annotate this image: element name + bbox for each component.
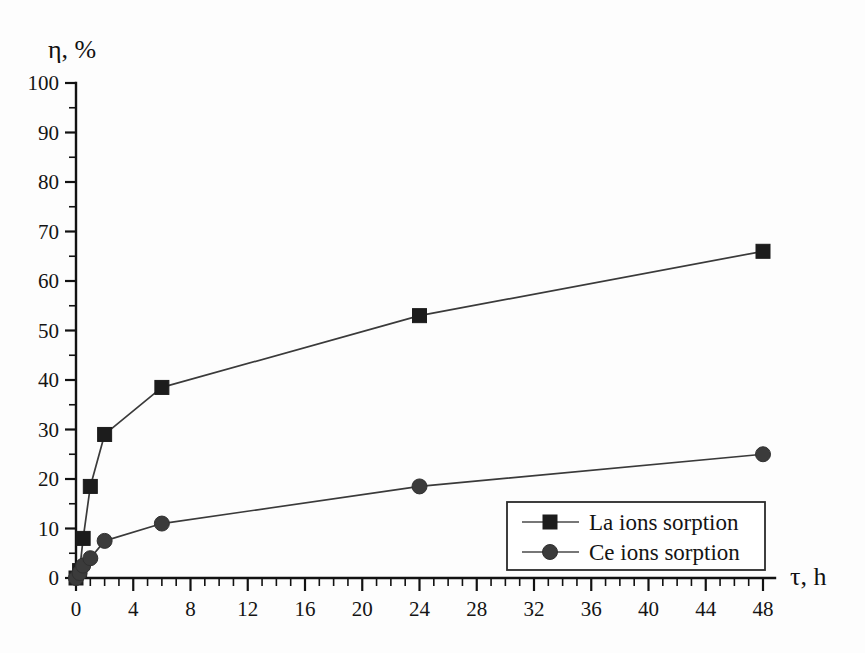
y-tick-label: 0 xyxy=(49,566,60,590)
data-point-marker xyxy=(76,531,90,545)
legend-label: La ions sorption xyxy=(589,510,739,535)
x-tick-label: 44 xyxy=(695,597,717,621)
y-tick-label: 20 xyxy=(38,467,59,491)
y-axis-title: η, % xyxy=(48,35,96,64)
x-tick-label: 40 xyxy=(638,597,659,621)
legend-square-icon xyxy=(543,515,557,529)
x-tick-label: 12 xyxy=(237,597,258,621)
x-tick-label: 32 xyxy=(524,597,545,621)
y-tick-label: 50 xyxy=(38,319,59,343)
data-point-marker xyxy=(83,551,98,566)
x-tick-label: 8 xyxy=(185,597,196,621)
x-tick-label: 28 xyxy=(466,597,487,621)
legend-layer: La ions sorptionCe ions sorption xyxy=(507,502,765,570)
x-tick-label: 20 xyxy=(352,597,373,621)
data-point-marker xyxy=(97,533,112,548)
data-point-marker xyxy=(155,380,169,394)
x-tick-label: 0 xyxy=(71,597,82,621)
data-point-marker xyxy=(83,479,97,493)
y-tick-label: 100 xyxy=(28,71,60,95)
x-axis-title: τ, h xyxy=(790,562,826,591)
legend-label: Ce ions sorption xyxy=(589,540,740,565)
data-point-marker xyxy=(413,309,427,323)
y-tick-label: 80 xyxy=(38,170,59,194)
sorption-line-chart: 0102030405060708090100048121620242832364… xyxy=(0,0,865,653)
y-tick-label: 10 xyxy=(38,517,59,541)
data-point-marker xyxy=(98,427,112,441)
data-point-marker xyxy=(412,479,427,494)
x-tick-label: 48 xyxy=(753,597,774,621)
data-point-marker xyxy=(756,244,770,258)
data-point-marker xyxy=(154,516,169,531)
x-tick-label: 24 xyxy=(409,597,431,621)
y-tick-label: 60 xyxy=(38,269,59,293)
legend-circle-icon xyxy=(543,545,558,560)
y-tick-label: 40 xyxy=(38,368,59,392)
x-tick-label: 16 xyxy=(295,597,316,621)
data-point-marker xyxy=(756,447,771,462)
x-tick-label: 4 xyxy=(128,597,139,621)
x-tick-label: 36 xyxy=(581,597,602,621)
y-tick-label: 70 xyxy=(38,220,59,244)
y-tick-label: 90 xyxy=(38,121,59,145)
chart-figure: 0102030405060708090100048121620242832364… xyxy=(0,0,865,653)
y-tick-label: 30 xyxy=(38,418,59,442)
